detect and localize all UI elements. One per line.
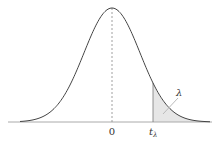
lambda-label: λ <box>175 87 182 98</box>
normal-curve-diagram: 0 tλ λ <box>0 0 223 144</box>
density-curve <box>20 8 210 122</box>
t-lambda-label: tλ <box>149 126 157 139</box>
zero-label: 0 <box>109 126 115 137</box>
t-subscript: λ <box>152 131 157 139</box>
